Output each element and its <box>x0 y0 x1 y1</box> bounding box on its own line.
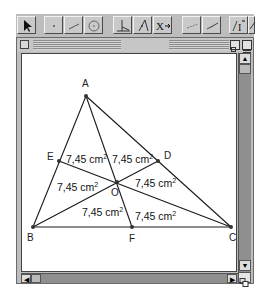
perpendicular-icon <box>114 17 133 35</box>
area-measurement-1[interactable]: 7,45 cm2 <box>66 153 107 165</box>
point-c[interactable] <box>229 225 233 229</box>
pencil-icon <box>249 17 256 35</box>
midpoint-tool-button[interactable] <box>133 16 152 34</box>
line-tool-button[interactable] <box>64 16 83 34</box>
point-f[interactable] <box>130 225 134 229</box>
arrow-pointer-icon <box>18 17 37 35</box>
svg-text:X: X <box>156 20 164 32</box>
text-icon: I <box>230 17 249 35</box>
point-label-o: O <box>111 187 119 198</box>
title-stripes-right <box>169 40 229 50</box>
point-e[interactable] <box>57 159 61 163</box>
draw-tool-button[interactable] <box>248 16 255 34</box>
sketch-window: ABCDEFO 7,45 cm27,45 cm27,45 cm27,45 cm2… <box>16 37 254 284</box>
pointer-tool-button[interactable] <box>17 16 36 34</box>
point-o[interactable] <box>115 180 119 184</box>
collapse-box-button[interactable] <box>242 40 252 50</box>
horizontal-scroll-thumb[interactable] <box>31 274 41 283</box>
calculate-tool-button[interactable] <box>202 16 221 34</box>
calculate-icon <box>203 17 222 35</box>
transform-tool-button[interactable]: X <box>153 16 172 34</box>
point-a[interactable] <box>84 94 88 98</box>
midpoint-icon <box>134 17 153 35</box>
area-measurement-2[interactable]: 7,45 cm2 <box>112 153 153 165</box>
point-b[interactable] <box>31 225 35 229</box>
point-icon <box>45 17 64 35</box>
area-measurement-4[interactable]: 7,45 cm2 <box>135 177 176 189</box>
resize-grow-box[interactable] <box>238 272 251 283</box>
resize-icon <box>239 278 250 287</box>
point-label-f: F <box>129 233 135 244</box>
measure-tool-button[interactable] <box>182 16 201 34</box>
drawing-canvas[interactable]: ABCDEFO 7,45 cm27,45 cm27,45 cm27,45 cm2… <box>21 53 237 272</box>
construction-tool-button[interactable] <box>113 16 132 34</box>
point-tool-button[interactable] <box>44 16 63 34</box>
scroll-right-arrow[interactable]: ▶ <box>227 274 237 283</box>
title-bar[interactable] <box>17 38 253 52</box>
scroll-up-arrow[interactable]: ▲ <box>239 53 251 64</box>
toolbar: X I <box>16 14 254 37</box>
zoom-box-button[interactable] <box>230 40 240 50</box>
area-measurement-5[interactable]: 7,45 cm2 <box>82 206 123 218</box>
svg-text:I: I <box>238 22 241 33</box>
point-label-b: B <box>27 232 34 243</box>
area-measurement-6[interactable]: 7,45 cm2 <box>135 210 176 222</box>
circle-icon <box>85 17 104 35</box>
transform-icon: X <box>154 17 173 35</box>
point-label-a: A <box>82 78 89 89</box>
scroll-left-arrow[interactable]: ◀ <box>21 274 31 283</box>
point-label-d: D <box>164 150 171 161</box>
vertical-scrollbar[interactable]: ▲ ▼ <box>238 53 251 272</box>
horizontal-scrollbar[interactable]: ◀ ▶ <box>21 273 238 283</box>
close-box-button[interactable] <box>20 40 29 49</box>
text-tool-button[interactable]: I <box>229 16 248 34</box>
title-stripes-left <box>33 40 121 50</box>
point-d[interactable] <box>156 159 160 163</box>
point-label-e: E <box>47 151 54 162</box>
scroll-down-arrow[interactable]: ▼ <box>239 260 251 271</box>
measure-icon <box>183 17 202 35</box>
area-measurement-3[interactable]: 7,45 cm2 <box>57 181 98 193</box>
vertical-scroll-thumb[interactable] <box>239 64 251 74</box>
segment-icon <box>65 17 84 35</box>
point-label-c: C <box>229 232 236 243</box>
circle-tool-button[interactable] <box>84 16 103 34</box>
triangle-diagram: ABCDEFO 7,45 cm27,45 cm27,45 cm27,45 cm2… <box>21 53 237 272</box>
